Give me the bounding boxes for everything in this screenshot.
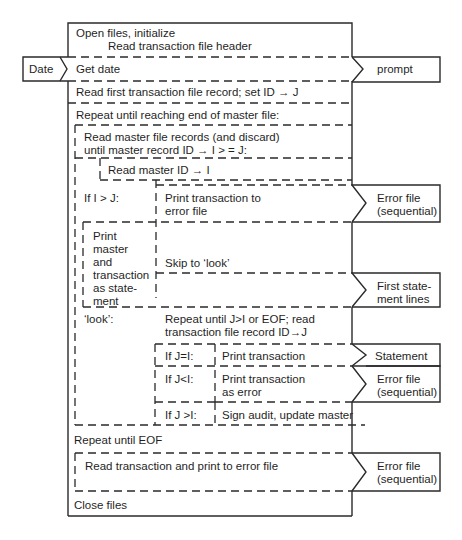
print-master-2: master [93,242,128,256]
step-print-transaction: Print transaction [222,349,305,363]
cond-j-lt-i: If J<I: [165,372,193,386]
input-date-label: Date [29,62,53,76]
step-read-master-1: Read master file records (and discard) [84,130,280,144]
output-statement: Statement [375,349,427,363]
output-error1-2: (sequential) [377,204,437,218]
print-master-3: and [93,255,112,269]
step-read-header: Read transaction file header [108,39,252,53]
output-prompt-label: prompt [377,62,413,76]
step-print-as-error-1: Print transaction [222,372,305,386]
step-repeat-eof: Repeat until EOF [74,433,162,447]
step-close-files: Close files [74,498,127,512]
cond-i-gt-j: If I > J: [84,191,119,205]
output-error3-2: (sequential) [377,472,437,486]
step-print-error-2: error file [165,204,207,218]
step-skip-look: Skip to ‘look’ [165,256,230,270]
step-read-master-id: Read master ID → I [108,163,210,177]
step-repeat-j-1: Repeat until J>I or EOF; read [165,312,315,326]
step-get-date: Get date [76,62,120,76]
step-repeat-j-2: transaction file record ID→J [165,325,307,339]
step-print-error-1: Print transaction to [165,191,261,205]
step-read-print-error: Read transaction and print to error file [85,459,278,473]
print-master-5: as state- [93,281,137,295]
output-first-stmt-1: First state- [377,279,431,293]
print-master-1: Print [93,229,117,243]
step-open-files: Open files, initialize [76,26,175,40]
cond-j-gt-i: If J >I: [165,408,197,422]
step-sign-audit: Sign audit, update master [222,408,353,422]
output-error2-1: Error file [377,372,420,386]
cond-j-eq-i: If J=I: [165,349,193,363]
output-error2-2: (sequential) [377,385,437,399]
date-chevron [60,57,67,81]
look-label: ‘look’: [84,312,113,326]
print-master-6: ment [93,294,119,308]
output-error3-1: Error file [377,459,420,473]
step-repeat-master: Repeat until reaching end of master file… [76,108,279,122]
output-first-stmt-2: ment lines [377,292,429,306]
step-read-master-2: until master record ID → I > = J: [84,143,247,157]
step-print-as-error-2: as error [222,385,262,399]
output-error1-1: Error file [377,191,420,205]
print-master-4: transaction [93,268,149,282]
step-read-first: Read first transaction file record; set … [76,85,298,99]
